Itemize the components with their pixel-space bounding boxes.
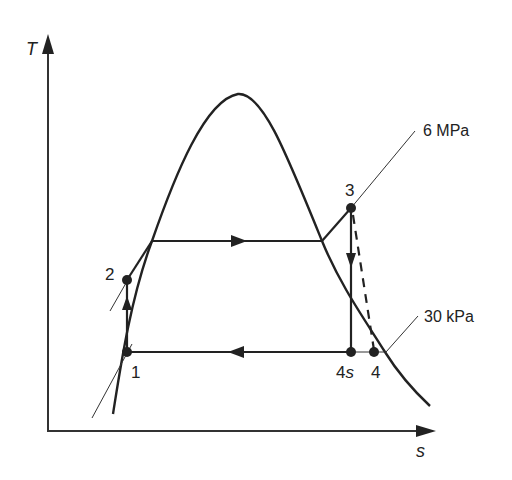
pressure-line-6mpa [351, 131, 415, 208]
point-1-label: 1 [131, 363, 140, 382]
pressure-label-30kpa: 30 kPa [424, 308, 474, 325]
point-4 [369, 347, 379, 357]
point-3-label: 3 [345, 181, 354, 200]
y-axis-label: T [26, 39, 39, 59]
process-superheat [322, 208, 351, 241]
process-3-4-actual [353, 215, 374, 350]
point-1 [122, 347, 132, 357]
arrow-down-icon [346, 253, 356, 268]
x-axis-arrow-icon [416, 425, 436, 437]
process-2-sat-liquid [127, 241, 152, 280]
axes: T s [26, 34, 436, 461]
point-4s [346, 347, 356, 357]
point-2-label: 2 [105, 265, 114, 284]
point-4s-label-sub: s [345, 363, 354, 382]
cycle [122, 208, 374, 358]
pressure-line-30kpa-leader [386, 316, 418, 352]
arrow-left-icon [228, 346, 244, 358]
saturation-dome [113, 94, 430, 414]
y-axis-arrow-icon [42, 34, 54, 54]
arrow-right-icon [231, 235, 247, 247]
arrow-up-icon [122, 296, 132, 310]
point-2 [122, 275, 132, 285]
point-3 [346, 203, 356, 213]
pressure-label-6mpa: 6 MPa [423, 122, 469, 139]
point-4s-label: 4s [336, 363, 354, 382]
point-4-label: 4 [371, 363, 380, 382]
ts-diagram: T s 6 MPa 30 kPa 1 [0, 0, 512, 480]
x-axis-label: s [416, 441, 425, 461]
point-4s-label-main: 4 [336, 363, 345, 382]
